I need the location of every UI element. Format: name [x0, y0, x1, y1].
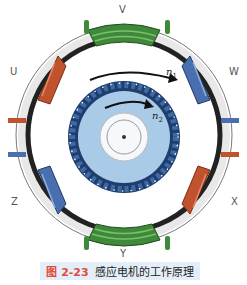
phase-label-y: Y	[120, 248, 126, 259]
figure-caption: 图 2-23 感应电机的工作原理	[40, 262, 200, 280]
phase-label-v: V	[119, 4, 126, 15]
phase-label-w: W	[229, 66, 239, 77]
figure-title: 感应电机的工作原理	[95, 263, 194, 279]
induction-motor-diagram: V U W Z X Y n1 n2	[0, 0, 247, 260]
rotor	[68, 81, 180, 193]
speed-label-n2: n2	[152, 110, 163, 124]
field-rotation-arrow	[90, 72, 170, 80]
phase-label-u: U	[10, 66, 17, 77]
phase-label-x: X	[231, 196, 238, 207]
motor-illustration	[0, 0, 247, 260]
phase-label-z: Z	[11, 196, 18, 207]
speed-label-n1: n1	[166, 66, 177, 80]
figure-number: 图 2-23	[46, 263, 88, 279]
